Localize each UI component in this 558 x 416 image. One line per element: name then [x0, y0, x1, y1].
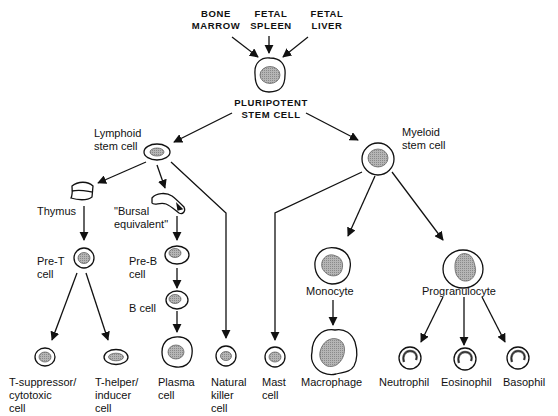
progranulocyte-cell-icon: [443, 250, 483, 288]
macrophage-cell-icon: [311, 330, 356, 375]
label-progranulocyte: Progranulocyte: [422, 285, 496, 298]
label-bone-marrow: BONE MARROW: [188, 8, 244, 32]
edge-pre-t-t-helper: [86, 273, 108, 340]
label-macrophage: Macrophage: [301, 376, 362, 389]
label-neutrophil: Neutrophil: [379, 376, 429, 389]
label-t-helper-cell: T-helper/ inducer cell: [95, 376, 138, 415]
edge-progranulocyte-neutrophil: [421, 297, 443, 342]
label-lymphoid-stem-cell: Lymphoid stem cell: [94, 127, 141, 153]
t-helper-cell-icon: [104, 350, 128, 365]
label-pluripotent-stem-cell: PLURIPOTENT STEM CELL: [226, 97, 316, 121]
natural-killer-cell-icon: [216, 346, 236, 366]
eosinophil-cell-icon: [454, 348, 476, 370]
label-basophil: Basophil: [503, 376, 545, 389]
mast-cell-icon: [265, 347, 285, 367]
label-fetal-liver: FETAL LIVER: [305, 8, 349, 32]
edge-progranulocyte-basophil: [482, 297, 505, 342]
label-bursal-equivalent: "Bursal equivalent": [114, 205, 168, 231]
b-cell-icon: [166, 291, 188, 309]
myeloid-stem-cell-icon: [362, 143, 394, 175]
edge-lymphoid-thymus: [98, 162, 146, 183]
neutrophil-cell-icon: [399, 347, 421, 369]
pre-b-cell-icon: [165, 246, 189, 264]
label-b-cell: B cell: [129, 302, 156, 315]
label-mast-cell: Mast cell: [262, 376, 286, 402]
thymus-organ-icon: [71, 182, 93, 200]
edge-lymphoid-bursal: [157, 165, 165, 188]
edge-pre-t-t-suppressor: [52, 273, 77, 340]
edge-myeloid-progranulocyte: [392, 172, 443, 240]
pluripotent-stem-cell-icon: [255, 58, 285, 92]
label-pre-t-cell: Pre-T cell: [37, 255, 65, 281]
label-natural-killer-cell: Natural killer cell: [211, 376, 246, 415]
t-suppressor-cell-icon: [35, 348, 55, 366]
edge-bone-marrow-pluripotent: [232, 37, 258, 57]
label-myeloid-stem-cell: Myeloid stem cell: [402, 126, 445, 152]
basophil-cell-icon: [507, 347, 529, 369]
edge-pluripotent-lymphoid: [174, 113, 232, 142]
label-thymus: Thymus: [37, 205, 76, 218]
pre-t-cell-icon: [74, 248, 94, 268]
label-plasma-cell: Plasma cell: [158, 376, 195, 402]
label-eosinophil: Eosinophil: [441, 376, 492, 389]
monocyte-cell-icon: [315, 248, 350, 284]
label-pre-b-cell: Pre-B cell: [129, 255, 157, 281]
edge-myeloid-monocyte: [348, 176, 375, 236]
plasma-cell-icon: [162, 337, 192, 367]
hematopoiesis-diagram: [0, 0, 558, 416]
label-t-suppressor-cell: T-suppressor/ cytotoxic cell: [9, 376, 76, 415]
edge-fetal-liver-pluripotent: [283, 37, 308, 57]
label-fetal-spleen: FETAL SPLEEN: [246, 8, 296, 32]
label-monocyte: Monocyte: [306, 285, 354, 298]
lymphoid-stem-cell-icon: [144, 144, 170, 160]
